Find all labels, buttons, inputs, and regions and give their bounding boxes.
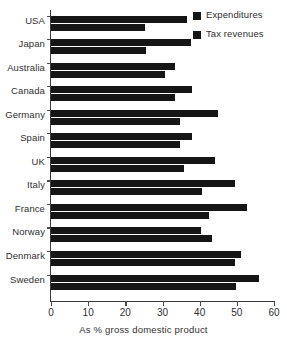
y-axis-label-denmark: Denmark — [6, 250, 45, 261]
y-axis-label-usa: USA — [25, 15, 45, 26]
y-axis-label-norway: Norway — [12, 226, 45, 237]
bar-expenditures-italy — [51, 180, 235, 187]
x-axis-tick-label: 50 — [231, 307, 242, 318]
x-axis-tick — [125, 301, 126, 306]
bar-expenditures-denmark — [51, 251, 241, 258]
x-axis-tick-label: 20 — [120, 307, 131, 318]
legend-label: Expenditures — [206, 9, 263, 20]
bar-expenditures-norway — [51, 227, 201, 234]
x-axis-tick — [237, 301, 238, 306]
legend-swatch-expenditures — [193, 12, 201, 20]
bar-expenditures-spain — [51, 133, 192, 140]
x-axis-tick — [163, 301, 164, 306]
bar-chart: USAJapanAustraliaCanadaGermanySpainUKIta… — [0, 0, 287, 343]
x-axis-tick — [200, 301, 201, 306]
bar-tax-revenues-canada — [51, 94, 175, 101]
x-axis-title: As % gross domestic product — [0, 324, 287, 335]
y-axis-label-italy: Italy — [27, 179, 45, 190]
bar-tax-revenues-france — [51, 212, 209, 219]
bar-expenditures-sweden — [51, 275, 259, 282]
bar-tax-revenues-sweden — [51, 283, 236, 290]
y-axis-label-france: France — [15, 203, 45, 214]
bar-tax-revenues-uk — [51, 165, 184, 172]
bar-tax-revenues-usa — [51, 24, 145, 31]
legend-label: Tax revenues — [206, 28, 264, 39]
y-axis-label-canada: Canada — [11, 85, 45, 96]
bar-tax-revenues-norway — [51, 235, 212, 242]
x-axis-tick — [274, 301, 275, 306]
legend-swatch-tax-revenues — [193, 31, 201, 39]
x-axis-tick — [88, 301, 89, 306]
bar-expenditures-france — [51, 204, 247, 211]
y-axis-label-japan: Japan — [19, 38, 45, 49]
bar-tax-revenues-japan — [51, 47, 146, 54]
x-axis-tick-label: 30 — [157, 307, 168, 318]
bar-tax-revenues-spain — [51, 141, 180, 148]
y-axis-label-sweden: Sweden — [10, 274, 45, 285]
y-axis-label-uk: UK — [32, 156, 45, 167]
y-axis-label-spain: Spain — [20, 132, 45, 143]
plot-area: USAJapanAustraliaCanadaGermanySpainUKIta… — [51, 10, 274, 302]
bar-tax-revenues-germany — [51, 118, 180, 125]
x-axis-tick — [51, 301, 52, 306]
x-axis-tick-label: 60 — [268, 307, 279, 318]
bar-expenditures-japan — [51, 39, 191, 46]
x-axis-tick-label: 0 — [48, 307, 54, 318]
x-axis-tick-label: 40 — [194, 307, 205, 318]
bar-expenditures-uk — [51, 157, 215, 164]
bar-expenditures-usa — [51, 16, 187, 23]
y-axis-label-australia: Australia — [7, 62, 45, 73]
bar-expenditures-canada — [51, 86, 192, 93]
bar-expenditures-germany — [51, 110, 218, 117]
x-axis-tick-label: 10 — [83, 307, 94, 318]
bar-tax-revenues-australia — [51, 71, 165, 78]
bar-tax-revenues-denmark — [51, 259, 235, 266]
bar-tax-revenues-italy — [51, 188, 202, 195]
y-axis-label-germany: Germany — [5, 109, 45, 120]
bar-expenditures-australia — [51, 63, 175, 70]
